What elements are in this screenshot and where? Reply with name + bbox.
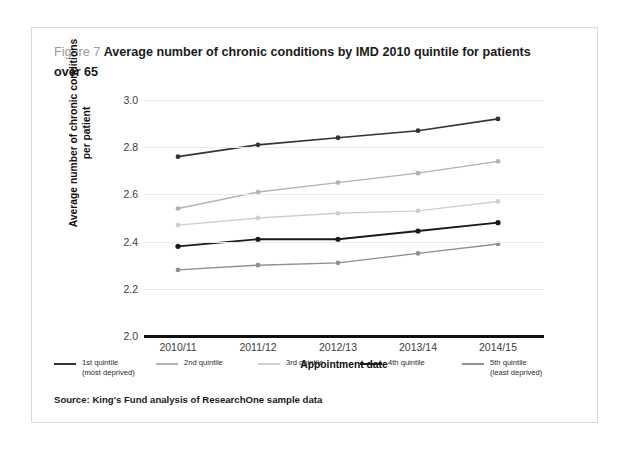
legend-label: 3rd quintile xyxy=(286,358,323,368)
data-point xyxy=(415,228,420,233)
legend-label: 2nd quintile xyxy=(184,358,223,368)
data-point xyxy=(416,171,421,176)
gridline xyxy=(144,147,544,148)
data-point xyxy=(176,268,181,273)
figure-title: Average number of chronic conditions by … xyxy=(54,45,531,79)
legend-item[interactable]: 4th quintile xyxy=(360,358,425,368)
series-line xyxy=(178,223,498,247)
legend-label-wrap: 3rd quintile xyxy=(286,358,323,368)
y-axis-title: Average number of chronic conditions per… xyxy=(67,33,93,233)
data-point xyxy=(336,211,341,216)
legend: 1st quintile(most deprived)2nd quintile3… xyxy=(54,358,584,392)
y-axis-ticks: 2.02.22.42.62.83.0 xyxy=(102,100,138,336)
series-lines xyxy=(144,100,544,336)
legend-swatch-icon xyxy=(258,363,280,365)
figure-card: Figure 7 Average number of chronic condi… xyxy=(31,27,598,423)
legend-item[interactable]: 2nd quintile xyxy=(156,358,223,368)
page-title: Figure 7 Average number of chronic condi… xyxy=(54,42,554,82)
x-axis-ticks: 2010/112011/122012/132013/142014/15 xyxy=(144,341,544,357)
legend-item[interactable]: 5th quintile(least deprived) xyxy=(462,358,542,378)
y-tick-label: 2.6 xyxy=(104,188,138,200)
x-tick-label: 2010/11 xyxy=(159,341,196,353)
legend-label: 1st quintile xyxy=(82,358,135,368)
data-point xyxy=(336,135,341,140)
data-point xyxy=(175,244,180,249)
plot-area xyxy=(144,100,544,336)
legend-item[interactable]: 3rd quintile xyxy=(258,358,323,368)
legend-swatch-icon xyxy=(462,363,484,365)
y-tick-label: 3.0 xyxy=(104,94,138,106)
data-point xyxy=(416,251,421,256)
legend-label-wrap: 5th quintile(least deprived) xyxy=(490,358,542,378)
y-tick-label: 2.4 xyxy=(104,236,138,248)
legend-sublabel: (most deprived) xyxy=(82,368,135,378)
x-tick-label: 2011/12 xyxy=(239,341,276,353)
y-tick-label: 2.0 xyxy=(104,330,138,342)
data-point xyxy=(416,128,421,133)
legend-swatch-icon xyxy=(156,363,178,365)
legend-label: 5th quintile xyxy=(490,358,542,368)
gridline xyxy=(144,194,544,195)
data-point xyxy=(176,223,181,228)
data-point xyxy=(256,263,261,268)
data-point xyxy=(336,180,341,185)
legend-label: 4th quintile xyxy=(388,358,425,368)
data-point xyxy=(496,199,501,204)
y-tick-label: 2.8 xyxy=(104,141,138,153)
gridline xyxy=(144,100,544,101)
x-tick-label: 2012/13 xyxy=(319,341,357,353)
series-line xyxy=(178,244,498,270)
data-point xyxy=(176,206,181,211)
data-point xyxy=(336,260,341,265)
data-point xyxy=(495,220,500,225)
data-point xyxy=(416,209,421,214)
gridline xyxy=(144,289,544,290)
data-point xyxy=(496,159,501,164)
legend-sublabel: (least deprived) xyxy=(490,368,542,378)
gridline xyxy=(144,242,544,243)
legend-swatch-icon xyxy=(54,363,76,365)
legend-label-wrap: 4th quintile xyxy=(388,358,425,368)
legend-item[interactable]: 1st quintile(most deprived) xyxy=(54,358,135,378)
legend-swatch-icon xyxy=(360,363,382,365)
x-tick-label: 2014/15 xyxy=(479,341,517,353)
data-point xyxy=(176,154,181,159)
legend-label-wrap: 1st quintile(most deprived) xyxy=(82,358,135,378)
x-axis-baseline xyxy=(144,335,544,338)
y-tick-label: 2.2 xyxy=(104,283,138,295)
data-point xyxy=(496,116,501,121)
legend-label-wrap: 2nd quintile xyxy=(184,358,223,368)
data-point xyxy=(256,216,261,221)
x-tick-label: 2013/14 xyxy=(399,341,437,353)
source-note: Source: King's Fund analysis of Research… xyxy=(54,394,322,405)
